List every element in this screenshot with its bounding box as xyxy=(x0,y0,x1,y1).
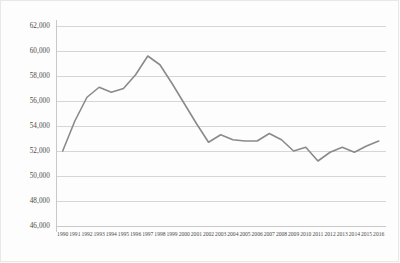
x-tick-label: 2001 xyxy=(191,231,202,237)
x-tick-label: 1991 xyxy=(69,231,80,237)
x-tick-label: 1999 xyxy=(166,231,177,237)
line-chart: 62,00060,00058,00056,00054,00052,00050,0… xyxy=(0,0,400,263)
x-tick-label: 2008 xyxy=(276,231,287,237)
x-tick-label: 1996 xyxy=(130,231,141,237)
x-tick-label: 1993 xyxy=(94,231,105,237)
x-tick-label: 2013 xyxy=(337,231,348,237)
x-tick-label: 2011 xyxy=(312,231,323,237)
x-tick-label: 2010 xyxy=(300,231,311,237)
x-tick-label: 1995 xyxy=(118,231,129,237)
x-tick-label: 1994 xyxy=(106,231,117,237)
x-tick-label: 2012 xyxy=(324,231,335,237)
x-tick-label: 1990 xyxy=(57,231,68,237)
x-tick-label: 2006 xyxy=(252,231,263,237)
x-tick-label: 2014 xyxy=(349,231,360,237)
x-axis-tick-labels: 1990199119921993199419951996199719981999… xyxy=(56,231,386,247)
x-tick-label: 2016 xyxy=(373,231,384,237)
x-tick-label: 2015 xyxy=(361,231,372,237)
x-tick-label: 1997 xyxy=(142,231,153,237)
series-line xyxy=(63,56,379,161)
x-tick-label: 1998 xyxy=(154,231,165,237)
x-tick-label: 2002 xyxy=(203,231,214,237)
x-tick-label: 2003 xyxy=(215,231,226,237)
series-layer xyxy=(0,0,400,263)
x-tick-label: 1992 xyxy=(81,231,92,237)
x-tick-label: 2000 xyxy=(179,231,190,237)
x-tick-label: 2009 xyxy=(288,231,299,237)
x-tick-label: 2005 xyxy=(239,231,250,237)
chart-frame: 62,00060,00058,00056,00054,00052,00050,0… xyxy=(0,0,400,263)
x-tick-label: 2004 xyxy=(227,231,238,237)
x-tick-label: 2007 xyxy=(264,231,275,237)
